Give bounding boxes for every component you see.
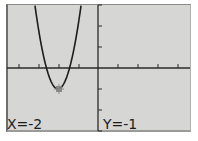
trace-x-readout: X=-2 (7, 117, 42, 131)
trace-y-readout: Y=-1 (103, 117, 137, 131)
function-curve (35, 6, 81, 89)
